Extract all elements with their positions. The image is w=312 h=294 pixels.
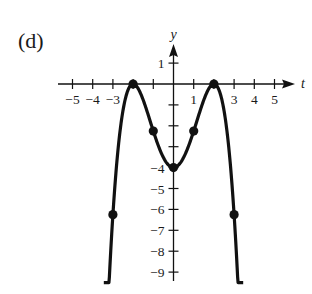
x-tick-label: 4 (251, 92, 258, 107)
y-tick-label: −9 (150, 265, 165, 280)
data-point (209, 79, 218, 88)
x-tick-label: −3 (106, 92, 121, 107)
data-point (108, 210, 117, 219)
data-point (189, 126, 198, 135)
y-tick-label: 1 (158, 56, 165, 71)
data-point (169, 163, 178, 172)
y-tick-label: −6 (150, 202, 165, 217)
axes: ty (58, 27, 306, 281)
x-axis-label: t (301, 76, 306, 91)
x-tick-label: −5 (65, 92, 80, 107)
data-point (230, 210, 239, 219)
x-tick-label: −4 (86, 92, 101, 107)
y-tick-label: −5 (150, 182, 165, 197)
y-tick-label: −7 (150, 223, 165, 238)
x-tick-label: 5 (271, 92, 278, 107)
y-tick-label: −4 (150, 161, 165, 176)
data-point (129, 79, 138, 88)
y-axis-label: y (169, 27, 178, 42)
data-point (149, 126, 158, 135)
function-graph: ty −5−4−313451−4−5−6−7−8−9 (0, 0, 312, 294)
x-tick-label: 1 (190, 92, 197, 107)
x-tick-label: 3 (231, 92, 238, 107)
y-tick-label: −8 (150, 244, 165, 259)
